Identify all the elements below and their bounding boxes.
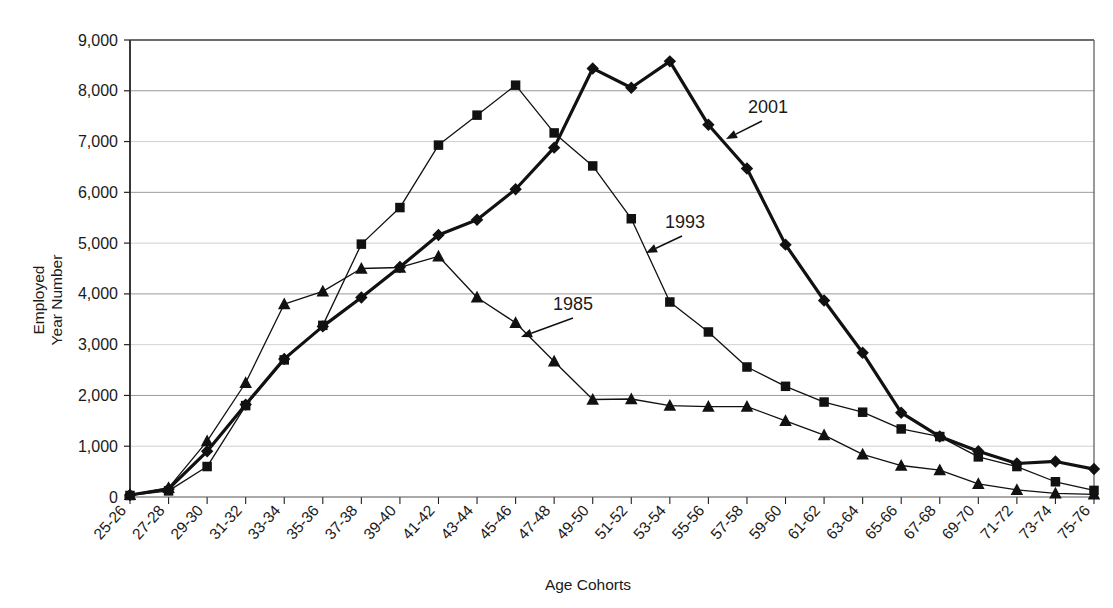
chart-container: 01,0002,0003,0004,0005,0006,0007,0008,00… xyxy=(0,0,1113,608)
data-point-1993-43-44 xyxy=(472,110,482,120)
series-label-1993: 1993 xyxy=(665,212,705,232)
y-axis-label-line2: Year Number xyxy=(48,255,65,346)
data-point-1993-59-60 xyxy=(781,382,791,392)
series-label-2001: 2001 xyxy=(748,97,788,117)
y-axis-tick-label: 3,000 xyxy=(78,336,118,353)
data-point-1993-57-58 xyxy=(742,362,752,372)
data-point-1993-55-56 xyxy=(704,327,714,337)
data-point-1993-63-64 xyxy=(858,407,868,417)
y-axis-tick-label: 9,000 xyxy=(78,32,118,49)
data-point-1993-61-62 xyxy=(819,397,829,407)
series-label-1985: 1985 xyxy=(553,294,593,314)
y-axis-tick-label: 6,000 xyxy=(78,184,118,201)
y-axis-tick-label: 5,000 xyxy=(78,235,118,252)
data-point-1993-53-54 xyxy=(665,297,675,307)
data-point-1993-37-38 xyxy=(357,239,367,249)
data-point-1993-47-48 xyxy=(549,128,559,138)
data-point-1993-73-74 xyxy=(1051,477,1061,487)
data-point-1993-51-52 xyxy=(627,214,637,224)
y-axis-tick-label: 1,000 xyxy=(78,438,118,455)
y-axis-tick-label: 8,000 xyxy=(78,82,118,99)
data-point-1993-49-50 xyxy=(588,161,598,171)
y-axis-label-line1: Employed xyxy=(30,266,47,335)
data-point-1993-45-46 xyxy=(511,80,520,90)
data-point-1993-65-66 xyxy=(896,424,906,434)
employed-year-number-by-age-cohort-chart: 01,0002,0003,0004,0005,0006,0007,0008,00… xyxy=(0,0,1113,608)
x-axis-title: Age Cohorts xyxy=(545,576,631,593)
data-point-1993-29-30 xyxy=(202,462,212,472)
y-axis-tick-label: 2,000 xyxy=(78,387,118,404)
data-point-1993-75-76 xyxy=(1089,486,1099,496)
y-axis-tick-label: 7,000 xyxy=(78,133,118,150)
data-point-1993-41-42 xyxy=(434,140,444,150)
y-axis-tick-label: 4,000 xyxy=(78,285,118,302)
data-point-1993-39-40 xyxy=(395,203,405,213)
